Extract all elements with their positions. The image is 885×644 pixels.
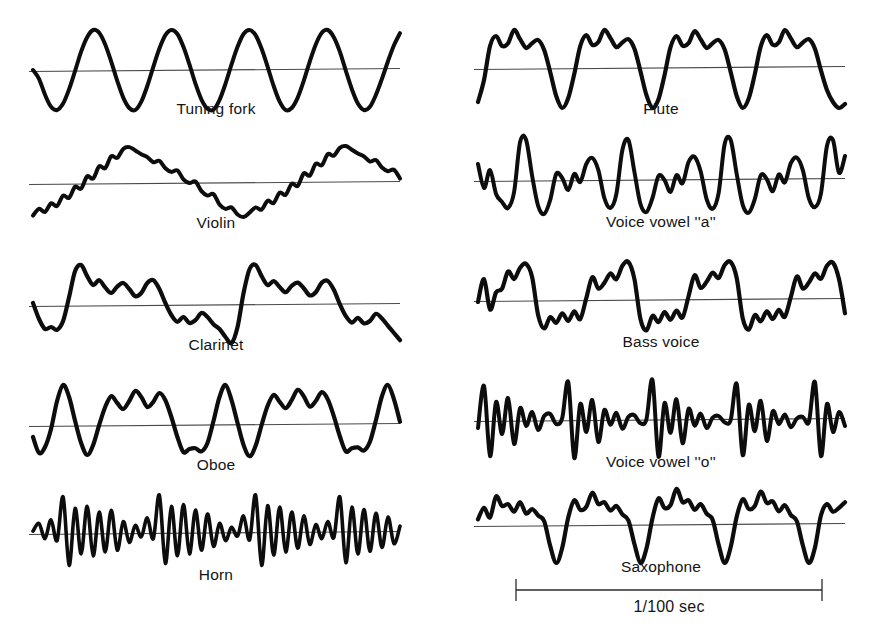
waveform-panel <box>29 495 400 566</box>
waveform-axis-line <box>474 179 845 182</box>
waveform-panel <box>29 146 400 217</box>
waveform-trace <box>33 495 400 566</box>
waveform-trace <box>478 261 845 330</box>
waveform-trace <box>478 136 845 215</box>
waveform-svg-canvas <box>0 0 885 644</box>
waveform-panel <box>29 264 400 343</box>
waveform-panel <box>474 379 845 458</box>
scale-bar-label: 1/100 sec <box>633 598 704 616</box>
waveform-axis-line <box>474 524 845 527</box>
waveform-trace <box>33 385 400 456</box>
waveform-label: Tuning fork <box>176 100 255 118</box>
waveform-panel <box>29 385 400 456</box>
waveform-label: Voice vowel ''o'' <box>606 453 716 471</box>
waveform-panel <box>29 30 400 111</box>
waveform-label: Voice vowel ''a'' <box>606 213 716 231</box>
waveform-axis-line <box>474 67 845 70</box>
waveform-panel <box>474 261 845 330</box>
waveform-figure: Tuning forkViolinClarinetOboeHornFluteVo… <box>0 0 885 644</box>
waveform-panel <box>474 136 845 215</box>
waveform-axis-line <box>29 304 400 307</box>
waveform-panel <box>474 30 845 108</box>
waveform-label: Flute <box>643 100 678 118</box>
waveform-label: Bass voice <box>623 333 700 351</box>
waveform-label: Saxophone <box>621 558 701 576</box>
waveform-panel <box>474 489 845 563</box>
waveform-label: Violin <box>197 214 236 232</box>
waveform-label: Oboe <box>197 456 236 474</box>
waveform-label: Clarinet <box>188 336 243 354</box>
waveform-label: Horn <box>199 566 233 584</box>
